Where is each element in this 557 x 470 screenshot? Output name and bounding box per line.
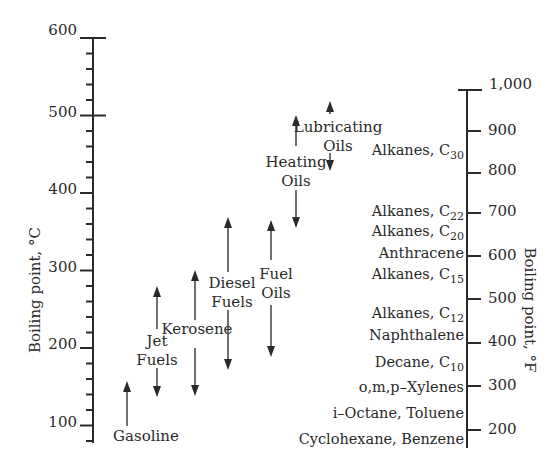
left-axis: 600 500 400 300 200 100 Boiling point, °… [26,21,106,443]
fraction-label: Oils [281,172,311,190]
fraction-label: Oils [261,284,291,302]
left-tick-label: 200 [48,335,77,353]
compound-label: Anthracene [378,245,464,261]
compound-label: Decane, C10 [375,354,464,374]
fraction-label: Fuels [136,351,177,369]
right-tick-label: 700 [488,202,517,220]
fraction-label: Gasoline [113,427,179,445]
fraction-label: Fuels [211,293,252,311]
compound-label: Cyclohexane, Benzene [299,431,464,447]
fraction-fuel-oils: Fuel Oils [259,220,293,357]
right-tick-label: 500 [488,289,517,307]
chart-canvas: 600 500 400 300 200 100 Boiling point, °… [0,0,557,470]
boiling-point-chart: 600 500 400 300 200 100 Boiling point, °… [0,0,557,470]
right-axis: 1,000 900 800 700 600 500 400 300 200 Bo… [458,75,539,448]
arrow-down-icon [267,346,275,357]
arrow-down-icon [224,359,232,370]
left-axis-title: Boiling point, °C [26,227,44,353]
arrow-up-icon [191,270,199,281]
fraction-label: Oils [323,137,353,155]
compound-label: Naphthalene [369,327,464,343]
fraction-label: Diesel [208,274,255,292]
arrow-up-icon [326,101,334,112]
fraction-label: Fuel [259,265,293,283]
right-tick-label: 600 [488,246,517,264]
fraction-jet-fuels: Jet Fuels [136,286,177,397]
left-tick-label: 500 [48,103,77,121]
arrow-down-icon [292,217,300,228]
left-tick-label: 100 [48,413,77,431]
fraction-label: Heating [266,153,327,171]
arrow-up-icon [123,381,131,392]
compound-label: i–Octane, Toluene [333,405,464,421]
fuel-fractions: Gasoline Jet Fuels Kerosene Diesel Fuels [113,101,383,445]
arrow-up-icon [267,220,275,231]
right-tick-label: 800 [488,161,517,179]
right-tick-label: 400 [488,332,517,350]
arrow-down-icon [326,160,334,171]
left-minor-ticks [86,54,93,442]
fraction-label: Kerosene [162,320,233,338]
arrow-down-icon [153,386,161,397]
compound-labels: Alkanes, C30 Alkanes, C22 Alkanes, C20 A… [299,142,464,447]
compound-label: Alkanes, C15 [371,266,464,286]
arrow-up-icon [153,286,161,297]
fraction-gasoline: Gasoline [113,381,179,445]
right-tick-label: 300 [488,376,517,394]
right-tick-label: 1,000 [489,75,532,93]
left-tick-label: 400 [48,180,77,198]
arrow-up-icon [224,217,232,228]
fraction-diesel-fuels: Diesel Fuels [208,217,255,370]
right-axis-title: Boiling point, °F [521,247,539,372]
left-tick-label: 300 [48,258,77,276]
compound-label: Alkanes, C22 [371,203,464,223]
arrow-down-icon [191,385,199,396]
right-tick-label: 900 [488,121,517,139]
compound-label: o,m,p–Xylenes [359,379,464,395]
left-tick-label: 600 [48,21,77,39]
compound-label: Alkanes, C30 [371,142,464,162]
compound-label: Alkanes, C20 [371,223,464,243]
right-tick-label: 200 [488,420,517,438]
compound-label: Alkanes, C12 [371,305,464,325]
fraction-label: Lubricating [294,118,383,136]
